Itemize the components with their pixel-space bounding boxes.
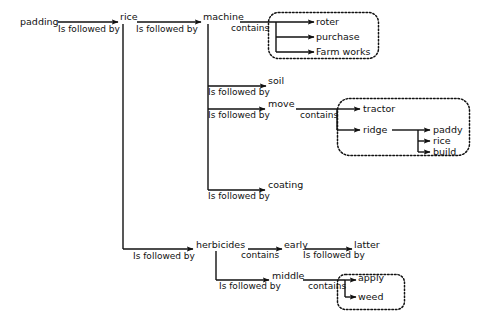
edge-label-rice-to-machine: Is followed by [136,24,199,34]
diagram-canvas: padding rice machine roter purchase Farm… [0,0,477,326]
node-purchase: purchase [316,31,360,42]
node-soil: soil [268,75,284,86]
node-roter: roter [316,16,339,27]
node-rice: rice [120,11,138,22]
edge-label-move-contains: contains [300,110,338,120]
node-ridge: ridge [363,124,388,135]
node-build: build [433,146,456,157]
node-move: move [268,98,295,109]
edge-label-herbicides-to-middle: Is followed by [219,281,282,291]
edge-label-padding-to-rice: Is followed by [58,24,121,34]
node-tractor: tractor [363,103,395,114]
edge-label-herbicides-contains: contains [241,250,279,260]
edge-label-rice-to-herbicides: Is followed by [133,251,196,261]
edge-label-machine-to-soil: Is followed by [208,87,271,97]
edge-label-middle-contains: contains [308,281,346,291]
node-middle: middle [272,270,305,281]
edge-label-machine-to-move: Is followed by [208,110,271,120]
relationship-diagram: padding rice machine roter purchase Farm… [0,0,477,326]
node-latter: latter [354,239,380,250]
node-apply: apply [358,272,385,283]
node-herbicides: herbicides [196,239,245,250]
node-padding: padding [20,16,59,27]
node-farm-works: Farm works [316,46,370,57]
node-weed: weed [358,291,384,302]
edge-label-machine-to-coating: Is followed by [208,191,271,201]
node-coating: coating [268,179,303,190]
node-machine: machine [203,11,244,22]
edge-label-machine-contains: contains [231,23,269,33]
node-early: early [284,239,308,250]
edge-label-early-to-latter: Is followed by [303,250,366,260]
node-paddy: paddy [433,124,463,135]
node-rice-2: rice [433,135,451,146]
